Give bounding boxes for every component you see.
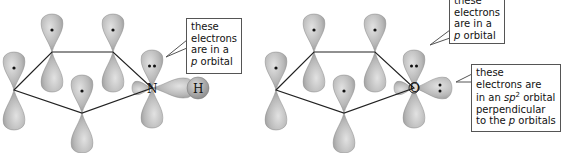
p-orbital-c4-top-lobe — [71, 75, 93, 113]
p-orbital-c2-bottom-lobe — [303, 52, 325, 92]
callout-furan-p-orbital: these electrons are in a p orbital — [449, 0, 505, 44]
electron-dot — [410, 65, 413, 68]
p-orbital-c4-bottom-lobe — [71, 113, 93, 153]
callout-pointer — [430, 30, 450, 45]
electron-dot — [80, 89, 83, 92]
p-orbital-c3-bottom-lobe — [364, 52, 386, 92]
callout-pointer — [166, 40, 187, 57]
p-orbital-c1-bottom-lobe — [3, 90, 25, 130]
hydrogen-atom-label: H — [193, 82, 203, 96]
callout-pointer — [456, 74, 472, 82]
electron-dot — [153, 65, 156, 68]
electron-dot — [373, 28, 376, 31]
p-orbital-c2-top-lobe — [41, 14, 63, 52]
pyrrole-diagram — [3, 14, 209, 153]
oxygen-atom-label: O — [410, 81, 420, 95]
electron-dot — [415, 65, 418, 68]
electron-dot — [148, 65, 151, 68]
p-orbital-c3-top-lobe — [364, 14, 386, 52]
p-orbital-c4-bottom-lobe — [333, 113, 355, 153]
callout-line: in an sp2 orbital — [476, 90, 556, 104]
callout-line: p orbital — [454, 30, 500, 42]
callout-line: perpendicular — [476, 104, 556, 116]
electron-dot — [439, 90, 442, 93]
electron-dot — [439, 84, 442, 87]
p-orbital-c1-bottom-lobe — [265, 90, 287, 130]
p-orbital-c3-top-lobe — [102, 14, 124, 52]
callout-furan-sp2-orbital: these electrons are in an sp2 orbital pe… — [471, 64, 561, 132]
p-orbital-c2-bottom-lobe — [41, 52, 63, 92]
electron-dot — [274, 66, 277, 69]
callout-line: electrons are — [476, 79, 556, 91]
electron-dot — [50, 28, 53, 31]
p-orbital-c4-top-lobe — [333, 75, 355, 113]
furan-diagram — [265, 14, 452, 153]
nitrogen-atom-label: N — [147, 82, 158, 96]
electron-dot — [12, 66, 15, 69]
callout-line: these — [191, 21, 237, 33]
callout-line: these — [476, 67, 556, 79]
callout-line: to the p orbitals — [476, 115, 556, 127]
p-orbital-c2-top-lobe — [303, 14, 325, 52]
electron-dot — [312, 28, 315, 31]
callout-line: p orbital — [191, 56, 237, 68]
callout-line: are in a — [191, 44, 237, 56]
callout-line: electrons — [454, 7, 500, 19]
electron-dot — [111, 28, 114, 31]
p-orbital-c1-top-lobe — [265, 52, 287, 90]
electron-dot — [342, 89, 345, 92]
p-orbital-c1-top-lobe — [3, 52, 25, 90]
callout-line: electrons — [191, 33, 237, 45]
callout-pyrrole-p-orbital: these electrons are in a p orbital — [186, 18, 242, 74]
p-orbital-c3-bottom-lobe — [102, 52, 124, 92]
callout-line: are in a — [454, 18, 500, 30]
